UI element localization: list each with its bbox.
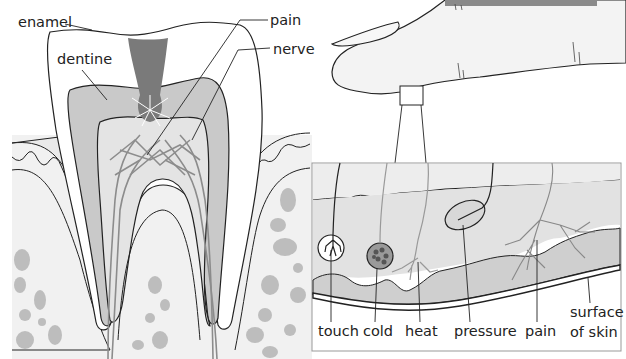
label-heat: heat	[405, 324, 438, 339]
label-pain-skin: pain	[525, 324, 556, 339]
diagram-stage: enamel dentine pain nerve touch cold hea…	[0, 0, 626, 359]
label-enamel: enamel	[18, 15, 72, 30]
label-cold: cold	[363, 324, 393, 339]
finger-illustration	[332, 0, 626, 163]
tooth-illustration	[12, 20, 312, 359]
zoom-box	[400, 86, 423, 105]
label-surface: surface	[570, 305, 624, 320]
label-touch: touch	[318, 324, 359, 339]
cold-receptor	[367, 243, 393, 269]
label-dentine: dentine	[57, 52, 112, 67]
finger	[332, 0, 626, 94]
sleeve-band	[445, 0, 597, 6]
label-pain-tooth: pain	[270, 13, 301, 28]
label-pressure: pressure	[454, 324, 517, 339]
label-of-skin: of skin	[570, 325, 618, 340]
label-nerve: nerve	[273, 42, 315, 57]
